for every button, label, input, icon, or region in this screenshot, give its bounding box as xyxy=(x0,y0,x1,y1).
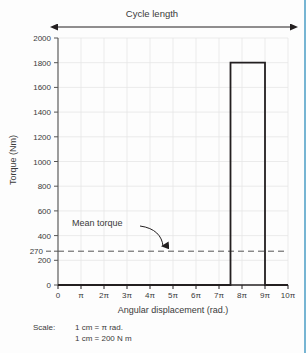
x-tick-label: π xyxy=(78,291,84,300)
x-tick-label: 2π xyxy=(99,291,109,300)
y-tick-label: 1600 xyxy=(33,83,51,92)
mean-torque-label: Mean torque xyxy=(72,218,123,228)
y-tick-label: 1000 xyxy=(33,158,51,167)
x-tick-label: 10π xyxy=(281,291,296,300)
figure-background xyxy=(0,0,306,353)
scale-line-1: 1 cm = π rad. xyxy=(75,323,123,332)
y-tick-label: 1200 xyxy=(33,133,51,142)
x-tick-label: 9π xyxy=(260,291,270,300)
y-axis-title: Torque (Nm) xyxy=(8,135,18,185)
y-tick-label: 0 xyxy=(47,281,52,290)
y-tick-label: 200 xyxy=(38,256,52,265)
y-tick-label: 2000 xyxy=(33,34,51,43)
cycle-length-label: Cycle length xyxy=(126,8,178,19)
x-tick-label: 6π xyxy=(191,291,201,300)
x-tick-label: 5π xyxy=(168,291,178,300)
x-tick-label: 0 xyxy=(56,291,61,300)
scale-line-2: 1 cm = 200 N m xyxy=(75,334,132,343)
x-tick-label: 4π xyxy=(145,291,155,300)
torque-cycle-figure: Cycle length xyxy=(0,0,306,353)
mean-torque-tick-label: 270 xyxy=(30,247,44,256)
y-tick-label: 1400 xyxy=(33,108,51,117)
x-tick-label: 8π xyxy=(237,291,247,300)
x-axis-title: Angular displacement (rad.) xyxy=(118,305,229,315)
y-tick-label: 1800 xyxy=(33,59,51,68)
y-tick-label: 600 xyxy=(38,207,52,216)
y-tick-label: 800 xyxy=(38,182,52,191)
scale-title: Scale: xyxy=(33,323,55,332)
x-tick-label: 7π xyxy=(214,291,224,300)
x-tick-label: 3π xyxy=(122,291,132,300)
page-edge-accent-rail xyxy=(304,0,306,353)
y-tick-label: 400 xyxy=(38,232,52,241)
